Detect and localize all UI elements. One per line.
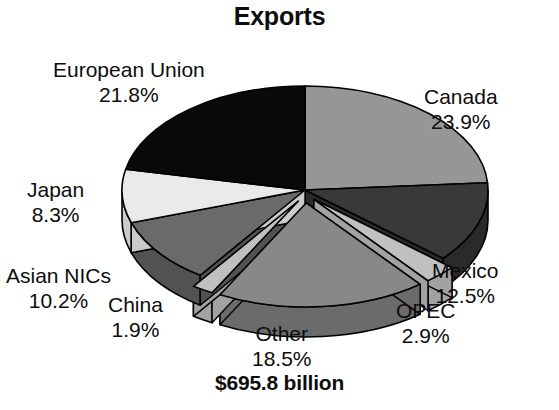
slice-label-european-union-percent: 21.8% <box>53 82 205 107</box>
slice-label-opec-percent: 2.9% <box>396 323 456 348</box>
slice-label-european-union-name: European Union <box>53 57 205 82</box>
slice-label-asian-nics: Asian NICs 10.2% <box>6 263 111 313</box>
slice-label-china: China 1.9% <box>108 292 163 342</box>
slice-label-canada-percent: 23.9% <box>424 109 498 134</box>
slice-label-china-percent: 1.9% <box>108 317 163 342</box>
slice-label-other: Other 18.5% <box>252 321 312 371</box>
slice-label-other-name: Other <box>252 321 312 346</box>
slice-label-opec: OPEC 2.9% <box>396 298 456 348</box>
slice-label-european-union: European Union 21.8% <box>53 57 205 107</box>
pie-chart-figure: Exports European Union 21.8% Canada 23.9… <box>0 0 559 410</box>
slice-label-japan: Japan 8.3% <box>27 177 84 227</box>
slice-label-canada: Canada 23.9% <box>424 84 498 134</box>
slice-label-china-name: China <box>108 292 163 317</box>
slice-label-asian-nics-name: Asian NICs <box>6 263 111 288</box>
slice-label-mexico-name: Mexico <box>432 258 499 283</box>
slice-label-canada-name: Canada <box>424 84 498 109</box>
slice-label-japan-percent: 8.3% <box>27 202 84 227</box>
slice-label-asian-nics-percent: 10.2% <box>6 288 111 313</box>
slice-label-japan-name: Japan <box>27 177 84 202</box>
slice-label-other-percent: 18.5% <box>252 346 312 371</box>
slice-label-opec-name: OPEC <box>396 298 456 323</box>
chart-total-value: $695.8 billion <box>0 371 559 395</box>
